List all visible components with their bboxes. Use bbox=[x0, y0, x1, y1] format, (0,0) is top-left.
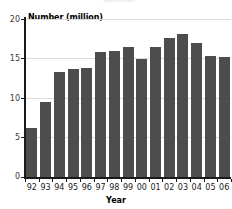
y-tick-label-10: 10 bbox=[0, 94, 20, 103]
x-tick-mark-96 bbox=[80, 179, 81, 182]
x-tick-mark-95 bbox=[66, 179, 67, 182]
bar-94 bbox=[54, 72, 65, 177]
x-tick-label-04: 04 bbox=[190, 183, 204, 192]
bar-cell bbox=[39, 19, 53, 177]
x-tick-label-00: 00 bbox=[135, 183, 149, 192]
y-tick-label-0: 0 bbox=[0, 172, 20, 181]
bar-cell bbox=[149, 19, 163, 177]
x-axis-title: Year bbox=[0, 196, 232, 205]
bar-cell bbox=[217, 19, 231, 177]
x-tick-mark-06 bbox=[217, 179, 218, 182]
x-tick-label-05: 05 bbox=[204, 183, 218, 192]
x-tick-mark-02 bbox=[162, 179, 163, 182]
cut-off-title-fragment: Number bbox=[103, 0, 151, 4]
x-axis-tick-labels: 929394959697989900010203040506 bbox=[25, 183, 231, 192]
x-tick-mark-94 bbox=[52, 179, 53, 182]
x-tick-mark-92 bbox=[25, 179, 26, 182]
x-tick-label-95: 95 bbox=[66, 183, 80, 192]
bar-cell bbox=[80, 19, 94, 177]
bar-series bbox=[25, 19, 231, 177]
bar-cell bbox=[94, 19, 108, 177]
y-tick-label-5: 5 bbox=[0, 133, 20, 142]
bar-cell bbox=[121, 19, 135, 177]
bar-cell bbox=[135, 19, 149, 177]
x-tick-label-97: 97 bbox=[94, 183, 108, 192]
bar-04 bbox=[191, 43, 202, 177]
bar-cell bbox=[52, 19, 66, 177]
bar-cell bbox=[176, 19, 190, 177]
y-tick-label-20: 20 bbox=[0, 15, 20, 24]
x-tick-label-06: 06 bbox=[217, 183, 231, 192]
bar-cell bbox=[66, 19, 80, 177]
y-tick-mark-0 bbox=[21, 177, 25, 178]
x-tick-label-03: 03 bbox=[176, 183, 190, 192]
x-tick-mark-00 bbox=[135, 179, 136, 182]
x-tick-label-93: 93 bbox=[39, 183, 53, 192]
bar-cell bbox=[25, 19, 39, 177]
bar-06 bbox=[219, 57, 230, 177]
x-tick-label-96: 96 bbox=[80, 183, 94, 192]
x-tick-label-99: 99 bbox=[121, 183, 135, 192]
x-axis-line bbox=[24, 177, 231, 179]
x-tick-label-92: 92 bbox=[25, 183, 39, 192]
bar-cell bbox=[162, 19, 176, 177]
bar-95 bbox=[68, 69, 79, 177]
x-tick-mark-93 bbox=[39, 179, 40, 182]
x-tick-label-98: 98 bbox=[107, 183, 121, 192]
x-tick-mark-97 bbox=[94, 179, 95, 182]
x-tick-mark-end bbox=[231, 179, 232, 182]
bar-99 bbox=[123, 47, 134, 177]
bar-92 bbox=[26, 128, 37, 177]
x-tick-label-01: 01 bbox=[149, 183, 163, 192]
bar-cell bbox=[204, 19, 218, 177]
bar-05 bbox=[205, 56, 216, 177]
x-tick-mark-04 bbox=[190, 179, 191, 182]
bar-02 bbox=[164, 38, 175, 177]
bar-cell bbox=[190, 19, 204, 177]
x-tick-mark-99 bbox=[121, 179, 122, 182]
x-tick-mark-98 bbox=[107, 179, 108, 182]
x-tick-label-02: 02 bbox=[162, 183, 176, 192]
bar-98 bbox=[109, 51, 120, 177]
y-tick-label-15: 15 bbox=[0, 54, 20, 63]
x-tick-mark-01 bbox=[149, 179, 150, 182]
x-tick-mark-03 bbox=[176, 179, 177, 182]
bar-00 bbox=[136, 59, 147, 177]
x-tick-label-94: 94 bbox=[52, 183, 66, 192]
bar-chart: Number Number (million) 20 15 10 5 0 929… bbox=[0, 0, 232, 209]
bar-93 bbox=[40, 102, 51, 177]
bar-cell bbox=[107, 19, 121, 177]
bar-96 bbox=[81, 68, 92, 177]
bar-03 bbox=[177, 34, 188, 177]
x-tick-mark-05 bbox=[204, 179, 205, 182]
bar-97 bbox=[95, 52, 106, 177]
bar-01 bbox=[150, 47, 161, 177]
